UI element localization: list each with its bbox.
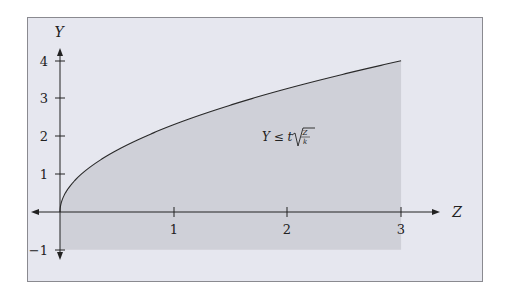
inequality-annotation: Y ≤ t Z k	[262, 128, 315, 146]
annotation-lhs: Y ≤ t	[262, 130, 293, 144]
y-axis-down-arrow-icon	[57, 252, 63, 260]
y-tick-label-2: 2	[40, 129, 48, 144]
x-tick-label-3: 3	[397, 222, 405, 237]
x-tick-label-2: 2	[283, 222, 291, 237]
y-tick-label-minus-1: −1	[29, 243, 48, 258]
chart-svg: 1 2 3 4 3 2 1 −1 Y Z Y ≤ t Z k	[0, 0, 511, 300]
y-tick-label-4: 4	[40, 54, 48, 69]
annotation-denominator: k	[303, 138, 307, 146]
x-axis-label: Z	[451, 204, 462, 220]
y-axis-label: Y	[54, 24, 65, 40]
annotation-numerator: Z	[302, 129, 308, 137]
x-tick-label-1: 1	[170, 222, 178, 237]
y-tick-label-3: 3	[40, 91, 48, 106]
y-axis-up-arrow-icon	[57, 48, 63, 56]
x-axis-right-arrow-icon	[432, 209, 440, 215]
y-tick-label-1: 1	[40, 167, 48, 182]
x-axis-left-arrow-icon	[31, 209, 39, 215]
shaded-region	[60, 61, 401, 250]
